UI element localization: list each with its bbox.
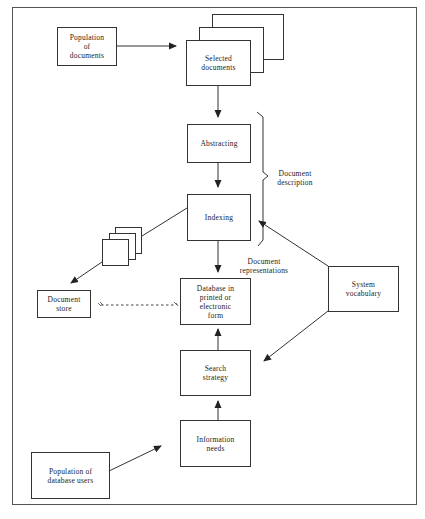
arrow-vocab-to-search (264, 311, 328, 361)
node-label: Indexing (205, 213, 233, 222)
node-system-vocabulary: System vocabulary (328, 266, 399, 312)
annotation-document-description: Document description (270, 169, 320, 187)
node-label: Abstracting (200, 139, 237, 148)
node-database: Database in printed or electronic form (180, 278, 251, 325)
document-copy-front (102, 239, 129, 266)
node-indexing: Indexing (187, 194, 251, 241)
node-label: Population of database users (48, 467, 94, 485)
node-label: Database in printed or electronic form (197, 284, 234, 320)
node-population-of-database-users: Population of database users (31, 452, 110, 499)
node-label: Search strategy (203, 364, 228, 382)
arrow-copies-to-store (71, 262, 102, 283)
node-label: System vocabulary (346, 280, 381, 298)
line-indexing-to-copies (142, 208, 187, 236)
node-label: Selected documents (201, 54, 235, 72)
node-label: Document store (48, 295, 81, 313)
node-document-store: Document store (37, 290, 91, 318)
node-abstracting: Abstracting (187, 124, 251, 163)
arrow-users-to-needs (109, 446, 161, 471)
node-population-of-documents: Population of documents (57, 27, 117, 66)
node-selected-documents: Selected documents (186, 40, 251, 86)
node-label: Information needs (196, 435, 234, 453)
node-search-strategy: Search strategy (180, 350, 251, 396)
node-information-needs: Information needs (180, 420, 251, 467)
node-label: Population of documents (70, 33, 105, 60)
annotation-document-representations: Document representations (232, 257, 296, 275)
